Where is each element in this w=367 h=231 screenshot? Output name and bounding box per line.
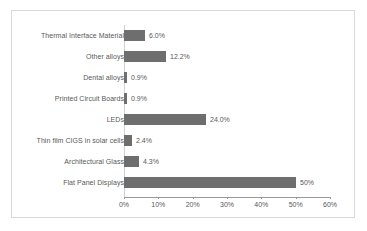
bar-row: Thin film CIGS in solar cells 2.4% [12, 130, 356, 151]
bar-value-label: 50% [296, 172, 314, 193]
category-label: Other alloys [20, 46, 124, 67]
chart-container: Thermal Interface Material 6.0% Other al… [11, 10, 355, 218]
bar-track: 50% [124, 172, 356, 193]
category-label: Printed Circuit Boards [20, 88, 124, 109]
category-label: LEDs [20, 109, 124, 130]
bar [124, 114, 206, 125]
bar-value-label: 6.0% [145, 25, 165, 46]
bar-row: Dental alloys 0.9% [12, 67, 356, 88]
x-axis-tick-label: 50% [289, 198, 303, 212]
bar [124, 177, 296, 188]
x-axis-tick-label: 60% [323, 198, 337, 212]
bar-row: Thermal Interface Material 6.0% [12, 25, 356, 46]
x-axis-tick-label: 40% [254, 198, 268, 212]
bar-track: 12.2% [124, 46, 356, 67]
bar [124, 135, 132, 146]
bar-value-label: 0.9% [127, 88, 147, 109]
category-label: Architectural Glass [20, 151, 124, 172]
bar-value-label: 24.0% [206, 109, 230, 130]
category-label: Flat Panel Displays [20, 172, 124, 193]
bar-track: 6.0% [124, 25, 356, 46]
bar-row: Flat Panel Displays 50% [12, 172, 356, 193]
bar [124, 51, 166, 62]
bar-row: Architectural Glass 4.3% [12, 151, 356, 172]
bar-value-label: 0.9% [127, 67, 147, 88]
category-label: Dental alloys [20, 67, 124, 88]
bar-row: LEDs 24.0% [12, 109, 356, 130]
x-axis-tick-label: 10% [151, 198, 165, 212]
bar-value-label: 2.4% [132, 130, 152, 151]
bar-row: Printed Circuit Boards 0.9% [12, 88, 356, 109]
bar-track: 0.9% [124, 88, 356, 109]
x-axis-tick-labels: 0%10%20%30%40%50%60% [12, 198, 356, 212]
x-axis-tick-label: 0% [119, 198, 129, 212]
bar [124, 156, 139, 167]
bar [124, 30, 145, 41]
x-axis-tick-label: 30% [220, 198, 234, 212]
category-label: Thin film CIGS in solar cells [20, 130, 124, 151]
bar-track: 4.3% [124, 151, 356, 172]
bar-track: 24.0% [124, 109, 356, 130]
x-axis-tick-label: 20% [186, 198, 200, 212]
bar-track: 0.9% [124, 67, 356, 88]
bar-row: Other alloys 12.2% [12, 46, 356, 67]
bar-track: 2.4% [124, 130, 356, 151]
plot-area: Thermal Interface Material 6.0% Other al… [12, 11, 356, 219]
category-label: Thermal Interface Material [20, 25, 124, 46]
bar-value-label: 12.2% [166, 46, 190, 67]
bar-value-label: 4.3% [139, 151, 159, 172]
